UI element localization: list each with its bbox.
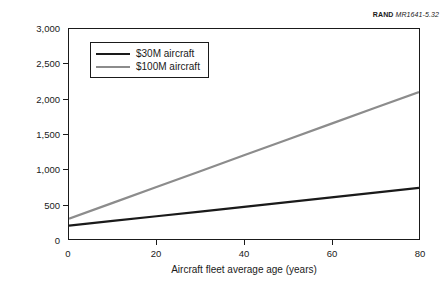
series-line: [69, 92, 419, 219]
legend-item[interactable]: $100M aircraft: [96, 60, 200, 73]
figure-code: MR1641-5.32: [395, 11, 439, 18]
x-tick-mark: [332, 240, 333, 245]
x-tick-mark: [244, 240, 245, 245]
legend-item[interactable]: $30M aircraft: [96, 47, 200, 60]
y-tick-label: 0: [55, 235, 60, 246]
x-axis-tick-labels: 020406080: [68, 248, 420, 262]
x-tick-label: 0: [65, 248, 70, 259]
legend[interactable]: $30M aircraft$100M aircraft: [90, 42, 209, 78]
x-tick-label: 20: [151, 248, 162, 259]
figure-identifier: RANDMR1641-5.32: [373, 11, 439, 18]
y-tick-label: 1,500: [36, 129, 60, 140]
legend-swatch-line-icon: [96, 53, 130, 55]
rand-wordmark: RAND: [373, 11, 394, 18]
y-tick-label: 2,500: [36, 58, 60, 69]
x-tick-label: 60: [327, 248, 338, 259]
y-axis-tick-labels: 05001,0001,5002,0002,5003,000: [0, 28, 60, 240]
y-tick-label: 2,000: [36, 93, 60, 104]
x-axis-title: Aircraft fleet average age (years): [68, 264, 420, 275]
series-line: [69, 188, 419, 226]
x-tick-label: 80: [415, 248, 426, 259]
y-tick-label: 1,000: [36, 164, 60, 175]
y-tick-label: 500: [44, 199, 60, 210]
legend-label: $30M aircraft: [136, 48, 194, 59]
x-tick-label: 40: [239, 248, 250, 259]
x-tick-mark: [156, 240, 157, 245]
legend-label: $100M aircraft: [136, 61, 200, 72]
x-axis-ticks: [68, 240, 420, 246]
y-tick-label: 3,000: [36, 23, 60, 34]
legend-swatch-line-icon: [96, 66, 130, 68]
